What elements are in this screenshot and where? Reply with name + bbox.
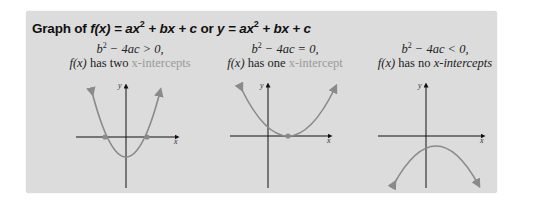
panel-3-condition: b2 − 4ac < 0, [350,42,520,56]
panel-3-description: f(x) has no x-intercepts [350,56,520,70]
panel-3-graph: x y [370,80,510,195]
panel-3-caption: b2 − 4ac < 0, f(x) has no x-intercepts [350,42,520,70]
box-title: Graph of f(x) = ax2 + bx + c or y = ax2 … [32,21,311,36]
panel-2-description: f(x) has one x-intercept [200,56,370,70]
panel-1-condition: b2 − 4ac > 0, [45,42,215,56]
parabola-no-intercepts [394,146,478,184]
svg-text:y: y [417,81,422,90]
x-intercept-point [102,134,107,139]
svg-text:x: x [326,136,331,145]
panel-1-description: f(x) has two x-intercepts [45,56,215,70]
svg-text:y: y [117,81,122,90]
panel-1-graph: x y [60,80,200,195]
vertex-intercept-point [285,133,290,138]
svg-text:x: x [479,136,484,145]
panel-2-graph: x y [220,80,360,195]
x-intercept-point [144,134,149,139]
svg-text:y: y [259,81,264,90]
panel-1-caption: b2 − 4ac > 0, f(x) has two x-intercepts [45,42,215,70]
panel-2-caption: b2 − 4ac = 0, f(x) has one x-intercept [200,42,370,70]
parabola-one-intercept [241,88,335,136]
panel-2-condition: b2 − 4ac = 0, [200,42,370,56]
svg-text:x: x [173,137,178,146]
